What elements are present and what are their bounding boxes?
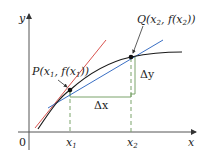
origin-label: 0 <box>19 136 26 149</box>
function-curve <box>38 52 182 129</box>
y-axis-label: y <box>18 12 26 25</box>
point-q-label: Q(x2, f(x2)) <box>137 13 196 27</box>
point-q <box>129 55 134 60</box>
delta-x-label: Δx <box>94 99 109 112</box>
x2-tick-label: x2 <box>127 136 138 150</box>
delta-y-bracket <box>131 57 135 94</box>
point-p <box>68 88 73 93</box>
delta-y-label: Δy <box>140 68 155 81</box>
x1-tick-label: x1 <box>66 136 77 150</box>
q-pointer-arrow <box>133 26 143 53</box>
delta-x-bracket <box>70 92 131 97</box>
secant-tangent-diagram: y x 0 P(x1, f(x1)) Q(x2, f(x2)) Δx Δy x1… <box>0 0 204 156</box>
diagram-canvas: y x 0 P(x1, f(x1)) Q(x2, f(x2)) Δx Δy x1… <box>0 0 204 156</box>
point-p-label: P(x1, f(x1)) <box>31 65 89 79</box>
x-axis-label: x <box>188 136 195 149</box>
p-pointer-arrow <box>58 80 67 87</box>
